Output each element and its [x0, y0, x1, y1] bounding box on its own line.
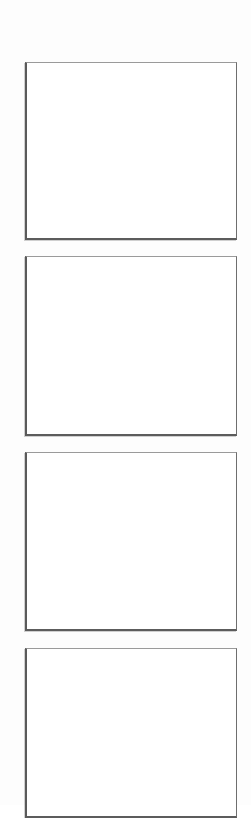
panel-1	[25, 62, 237, 240]
panel-3	[25, 452, 237, 631]
panel-4	[25, 648, 237, 818]
panel-2	[25, 256, 237, 436]
